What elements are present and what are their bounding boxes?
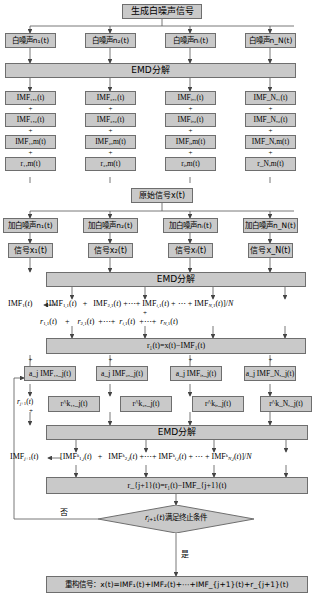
node-signal-1[interactable]: 信号x₁(t) bbox=[8, 243, 53, 258]
node-add-noise-2[interactable]: 加白噪声n₂(t) bbox=[83, 218, 138, 233]
node-imf-i-2[interactable]: IMFᵢ,₂(t) bbox=[165, 113, 216, 127]
node-scaled-imf-N[interactable]: a_j IMF_N,_j(t) bbox=[244, 366, 296, 381]
node-rk-2[interactable]: r^k₂,_j(t) bbox=[120, 396, 172, 412]
label-imfj1-lhs: IMFj+1(t) bbox=[10, 453, 38, 462]
node-add-noise-1[interactable]: 加白噪声n₁(t) bbox=[3, 218, 58, 233]
label-imfj1-rhs: [IMFk1,j(t) + IMFk2,j(t) +⋯+ IMFki,j(t) … bbox=[60, 453, 252, 462]
node-rk-1[interactable]: r^k₁,_j(t) bbox=[48, 396, 100, 412]
label-feedback-residual: rj+1(t) bbox=[17, 398, 33, 407]
plus-sign-col4-row1: + bbox=[245, 106, 296, 113]
plus-sign-col3-row1: + bbox=[165, 106, 216, 113]
plus-sign-feedback: + bbox=[17, 408, 45, 415]
plus-sign-col4-row3: + bbox=[245, 150, 296, 157]
node-emd-decomposition-1[interactable]: EMD分解 bbox=[5, 63, 296, 78]
node-rk-i[interactable]: r^kᵢ,_j(t) bbox=[192, 396, 244, 412]
plus-sign-a2: + bbox=[85, 357, 136, 364]
plus-sign-col2-row2: + bbox=[85, 128, 136, 135]
plus-sign-col3-row3: + bbox=[165, 150, 216, 157]
plus-sign-col2-row3: + bbox=[85, 150, 136, 157]
node-emd-decomposition-3[interactable]: EMD分解 bbox=[46, 425, 308, 440]
node-residual-i-m[interactable]: rᵢ,m(t) bbox=[165, 157, 216, 171]
label-imf1-rhs: [IMF1,1(t) + IMF2,1(t) +⋯+ IMFi,1(t) + ⋯… bbox=[46, 300, 233, 309]
node-imf-N-m[interactable]: IMF_N,m(t) bbox=[245, 135, 296, 149]
node-rk-N[interactable]: r^k_N,_j(t) bbox=[260, 396, 312, 412]
node-imf-2-2[interactable]: IMF₂,₂(t) bbox=[85, 113, 136, 127]
node-add-noise-i[interactable]: 加白噪声nᵢ(t) bbox=[163, 218, 218, 233]
node-emd-decomposition-2[interactable]: EMD分解 bbox=[46, 272, 306, 287]
node-imf-1-1[interactable]: IMF₁,₁(t) bbox=[5, 91, 56, 105]
plus-sign-col1-row3: + bbox=[5, 150, 56, 157]
node-residual-equation-j1[interactable]: r_{j+1}(t)=r₁(t)−IMF_{j+1}(t) bbox=[46, 477, 308, 494]
node-scaled-imf-i[interactable]: a_j IMFᵢ,_j(t) bbox=[170, 366, 222, 381]
node-reconstructed-signal[interactable]: 重构信号：x(t)=IMF₁(t)+IMF₂(t)+⋯+IMF_{j+1}(t)… bbox=[46, 576, 308, 593]
plus-sign-col1-row1: + bbox=[5, 106, 56, 113]
node-scaled-imf-1[interactable]: a_j IMF₁,_j(t) bbox=[24, 366, 76, 381]
node-original-signal[interactable]: 原始信号x(t) bbox=[131, 188, 193, 203]
node-imf-2-m[interactable]: IMF₂,m(t) bbox=[85, 135, 136, 149]
plus-sign-col1-row2: + bbox=[5, 128, 56, 135]
node-white-noise-1[interactable]: 白噪声n₁(t) bbox=[5, 33, 56, 48]
plus-sign-a4: + bbox=[245, 357, 296, 364]
node-imf-1-m[interactable]: IMF₁,m(t) bbox=[5, 135, 56, 149]
node-residual-N-m[interactable]: r_N,m(t) bbox=[245, 157, 296, 171]
label-branch-yes: 是 bbox=[181, 551, 189, 559]
plus-sign-eq1: + bbox=[133, 310, 157, 317]
node-residual-2-m[interactable]: r₂,m(t) bbox=[85, 157, 136, 171]
node-imf-N-2[interactable]: IMF_N,₂(t) bbox=[245, 113, 296, 127]
node-signal-N[interactable]: 信号x_N(t) bbox=[248, 243, 293, 258]
node-imf-i-m[interactable]: IMFᵢ,m(t) bbox=[165, 135, 216, 149]
node-signal-2[interactable]: 信号x₂(t) bbox=[88, 243, 133, 258]
node-white-noise-i[interactable]: 白噪声nᵢ(t) bbox=[165, 33, 216, 48]
plus-sign-a3: + bbox=[165, 357, 216, 364]
plus-sign-col2-row1: + bbox=[85, 106, 136, 113]
label-branch-no: 否 bbox=[60, 509, 68, 517]
node-imf-2-1[interactable]: IMF₂,₁(t) bbox=[85, 91, 136, 105]
flowchart-canvas: 生成白噪声信号 白噪声n₁(t) 白噪声n₂(t) 白噪声nᵢ(t) 白噪声n_… bbox=[0, 0, 324, 611]
node-scaled-imf-2[interactable]: a_j IMF₂,_j(t) bbox=[96, 366, 148, 381]
plus-sign-col4-row2: + bbox=[245, 128, 296, 135]
node-imf-N-1[interactable]: IMF_N,₁(t) bbox=[245, 91, 296, 105]
node-white-noise-N[interactable]: 白噪声n_N(t) bbox=[245, 33, 296, 48]
plus-sign-a1: + bbox=[5, 357, 56, 364]
node-signal-i[interactable]: 信号xᵢ(t) bbox=[168, 243, 213, 258]
node-white-noise-2[interactable]: 白噪声n₂(t) bbox=[85, 33, 136, 48]
label-residual-row: r1,1(t) + r2,1(t) +⋯+ ri,1(t) +⋯+ rN,1(t… bbox=[40, 318, 178, 327]
node-imf-1-2[interactable]: IMF₁,₂(t) bbox=[5, 113, 56, 127]
node-residual-equation-1[interactable]: r₁(t)=x(t)−IMF₁(t) bbox=[46, 338, 306, 354]
label-imf1-lhs: IMF1(t) bbox=[8, 300, 32, 309]
node-residual-1-m[interactable]: r₁,m(t) bbox=[5, 157, 56, 171]
node-imf-i-1[interactable]: IMFᵢ,₁(t) bbox=[165, 91, 216, 105]
decision-label: rj+1(t)满足终止条件 bbox=[98, 514, 254, 523]
node-generate-white-noise[interactable]: 生成白噪声信号 bbox=[122, 4, 202, 19]
plus-sign-col3-row2: + bbox=[165, 128, 216, 135]
node-add-noise-N[interactable]: 加白噪声n_N(t) bbox=[243, 218, 298, 233]
